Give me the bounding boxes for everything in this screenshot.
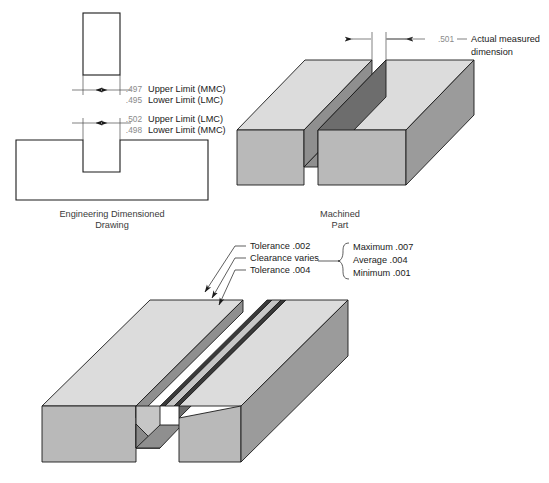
machined-left-rail-front-face xyxy=(237,130,304,185)
assembly-left-front-face xyxy=(42,406,136,462)
tab-upper-limit-label: Upper Limit (MMC) xyxy=(148,84,226,94)
assembly-callout-clearance-varies: Clearance varies xyxy=(250,253,319,263)
technical-illustration: .497 Upper Limit (MMC) .495 Lower Limit … xyxy=(0,0,549,483)
slot-lower-limit-value: .498 xyxy=(126,125,143,135)
brace-item-average: Average .004 xyxy=(353,255,408,265)
slotted-block-profile-group: .502 Upper Limit (LMC) .498 Lower Limit … xyxy=(16,114,226,230)
machined-part-caption-line1: Machined xyxy=(320,209,360,219)
brace-item-minimum: Minimum .001 xyxy=(353,268,411,278)
slot-profile-outline xyxy=(16,140,208,200)
engineering-drawing-caption-line1: Engineering Dimensioned xyxy=(59,209,164,219)
tab-profile-group: .497 Upper Limit (MMC) .495 Lower Limit … xyxy=(72,13,226,105)
slot-upper-limit-label: Upper Limit (LMC) xyxy=(148,114,223,124)
machined-part-group: .501 Actual measured dimension Machined … xyxy=(237,32,540,230)
tab-profile-rect xyxy=(83,13,120,75)
machined-right-rail-front-face xyxy=(318,130,406,185)
slot-upper-limit-value: .502 xyxy=(126,114,143,124)
tab-lower-limit-value: .495 xyxy=(126,95,143,105)
assembly-callout-tolerance-004: Tolerance .004 xyxy=(250,265,310,275)
tab-upper-limit-value: .497 xyxy=(126,84,143,94)
assembly-right-front-face xyxy=(179,406,241,462)
engineering-drawing-caption-line2: Drawing xyxy=(95,220,129,230)
machined-measured-label-line1: Actual measured xyxy=(471,34,540,44)
assembly-group: Tolerance .002 Clearance varies Toleranc… xyxy=(42,241,413,462)
machined-part-caption-line2: Part xyxy=(332,220,349,230)
brace-item-maximum: Maximum .007 xyxy=(353,242,413,252)
figure-canvas: .497 Upper Limit (MMC) .495 Lower Limit … xyxy=(0,0,549,483)
machined-measured-value: .501 xyxy=(438,34,455,44)
tab-lower-limit-label: Lower Limit (LMC) xyxy=(148,95,223,105)
assembly-leader-tolerance-002 xyxy=(205,246,235,292)
machined-measured-label-line2: dimension xyxy=(471,47,513,57)
slot-lower-limit-label: Lower Limit (MMC) xyxy=(148,125,226,135)
assembly-callout-tolerance-002: Tolerance .002 xyxy=(250,241,310,251)
